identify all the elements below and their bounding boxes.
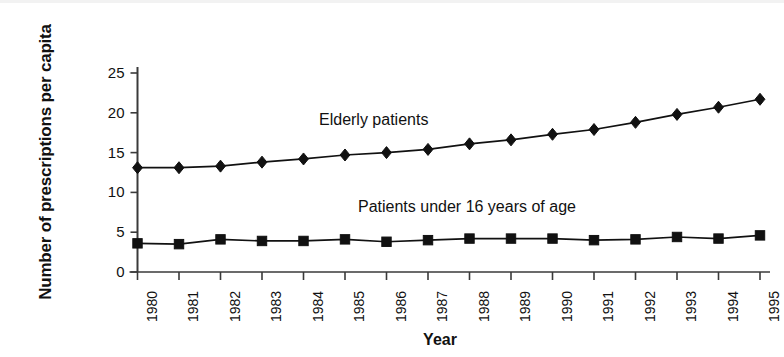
data-point-marker: [340, 235, 349, 244]
series-under-16: [133, 231, 765, 249]
y-tick-label: 25: [91, 65, 125, 80]
x-tick-label: 1991: [600, 276, 616, 322]
series-annotation-elderly: Elderly patients: [319, 111, 428, 129]
data-point-marker: [216, 160, 226, 172]
data-point-marker: [589, 235, 598, 244]
data-point-marker: [382, 237, 391, 246]
y-tick-label: 15: [91, 145, 125, 160]
data-point-marker: [589, 124, 599, 136]
x-axis-title: Year: [340, 331, 540, 349]
data-point-marker: [382, 147, 392, 159]
data-point-marker: [755, 93, 765, 105]
series-annotation-under-16: Patients under 16 years of age: [358, 198, 576, 216]
x-tick-label: 1980: [144, 276, 160, 322]
data-point-marker: [423, 235, 432, 244]
data-point-marker: [548, 128, 558, 140]
data-point-marker: [755, 231, 764, 240]
series-elderly: [133, 93, 765, 173]
x-tick-label: 1988: [476, 276, 492, 322]
data-point-marker: [299, 236, 308, 245]
data-point-marker: [631, 116, 641, 128]
data-point-marker: [465, 138, 475, 150]
data-point-marker: [216, 235, 225, 244]
x-tick-label: 1994: [725, 276, 741, 322]
data-point-marker: [631, 235, 640, 244]
x-tick-label: 1989: [517, 276, 533, 322]
data-point-marker: [133, 239, 142, 248]
data-point-marker: [672, 108, 682, 120]
x-tick-label: 1981: [185, 276, 201, 322]
data-point-marker: [465, 234, 474, 243]
data-point-marker: [506, 234, 515, 243]
data-point-marker: [174, 162, 184, 174]
x-tick-label: 1984: [310, 276, 326, 322]
data-point-marker: [714, 101, 724, 113]
data-point-marker: [548, 234, 557, 243]
data-point-marker: [257, 156, 267, 168]
data-point-marker: [506, 134, 516, 146]
x-tick-label: 1983: [268, 276, 284, 322]
data-point-marker: [299, 153, 309, 165]
data-point-marker: [340, 149, 350, 161]
data-point-marker: [174, 239, 183, 248]
y-tick-label: 0: [91, 264, 125, 279]
data-point-marker: [672, 232, 681, 241]
x-tick-label: 1992: [642, 276, 658, 322]
x-tick-label: 1993: [683, 276, 699, 322]
x-tick-label: 1985: [351, 276, 367, 322]
data-point-marker: [133, 162, 143, 174]
x-tick-label: 1990: [559, 276, 575, 322]
y-tick-label: 10: [91, 184, 125, 199]
data-point-marker: [714, 234, 723, 243]
y-tick-label: 20: [91, 105, 125, 120]
y-tick-label: 5: [91, 224, 125, 239]
x-tick-label: 1982: [227, 276, 243, 322]
x-tick-label: 1995: [766, 276, 782, 322]
plot-area: [0, 0, 784, 357]
x-tick-label: 1986: [393, 276, 409, 322]
chart-figure: Number of prescriptions per capita 05101…: [0, 0, 784, 357]
data-point-marker: [423, 143, 433, 155]
x-tick-label: 1987: [434, 276, 450, 322]
data-point-marker: [257, 236, 266, 245]
